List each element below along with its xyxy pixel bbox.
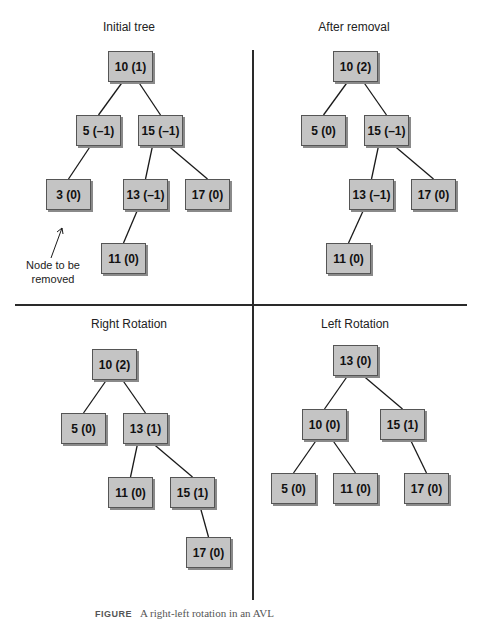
- panel-title-left-rotation: Left Rotation: [321, 317, 389, 331]
- annotation-line-1: Node to be: [18, 258, 88, 272]
- tree-node: 5 (–1): [76, 115, 121, 146]
- tree-node: 13 (–1): [349, 179, 394, 210]
- tree-node: 17 (0): [185, 179, 230, 210]
- tree-node: 15 (–1): [138, 115, 183, 146]
- tree-node: 10 (2): [92, 349, 137, 380]
- tree-edge: [395, 146, 434, 179]
- tree-node: 10 (1): [108, 51, 153, 82]
- tree-node: 17 (0): [186, 537, 231, 568]
- tree-node: 5 (0): [301, 115, 346, 146]
- tree-node: 11 (0): [108, 477, 153, 508]
- tree-node: 11 (0): [101, 243, 146, 274]
- tree-edge: [333, 440, 356, 473]
- tree-node: 15 (–1): [364, 115, 409, 146]
- tree-node: 11 (0): [333, 473, 378, 504]
- annotation-line-2: removed: [18, 272, 88, 286]
- tree-node: 13 (1): [123, 413, 168, 444]
- tree-edge: [325, 376, 348, 409]
- panel-title-after-removal: After removal: [318, 20, 389, 34]
- tree-node: 10 (2): [333, 51, 378, 82]
- tree-edge: [411, 440, 427, 473]
- caption-text: A right-left rotation in an AVL: [140, 607, 274, 619]
- tree-edge: [146, 146, 153, 179]
- tree-node: 13 (–1): [123, 179, 168, 210]
- tree-node: 5 (0): [61, 413, 106, 444]
- tree-edge: [349, 210, 364, 243]
- tree-edge: [139, 82, 161, 115]
- tree-edge: [169, 146, 208, 179]
- tree-node: 17 (0): [411, 179, 456, 210]
- tree-edge: [124, 210, 138, 243]
- tree-edge: [364, 376, 403, 409]
- tree-edge: [294, 440, 317, 473]
- tree-edge: [372, 146, 379, 179]
- tree-edge: [123, 380, 146, 413]
- tree-edge: [324, 82, 348, 115]
- caption-label: FIGURE: [95, 609, 132, 619]
- node-to-be-removed-annotation: Node to be removed: [18, 258, 88, 286]
- tree-edge: [99, 82, 123, 115]
- tree-node: 3 (0): [46, 179, 91, 210]
- panel-title-initial-tree: Initial tree: [103, 20, 155, 34]
- tree-node: 13 (0): [333, 345, 378, 376]
- arrow-icon: [51, 228, 63, 258]
- panel-title-right-rotation: Right Rotation: [91, 317, 167, 331]
- tree-edge: [364, 82, 387, 115]
- tree-edge: [201, 508, 209, 537]
- tree-edge: [69, 146, 91, 179]
- tree-node: 11 (0): [326, 243, 371, 274]
- tree-node: 10 (0): [302, 409, 347, 440]
- tree-edge: [154, 444, 193, 477]
- tree-node: 15 (1): [170, 477, 215, 508]
- figure-caption: FIGUREA right-left rotation in an AVL: [95, 607, 274, 619]
- tree-edge: [131, 444, 138, 477]
- tree-node: 17 (0): [404, 473, 449, 504]
- tree-node: 15 (1): [380, 409, 425, 440]
- tree-node: 5 (0): [271, 473, 316, 504]
- tree-edge: [84, 380, 107, 413]
